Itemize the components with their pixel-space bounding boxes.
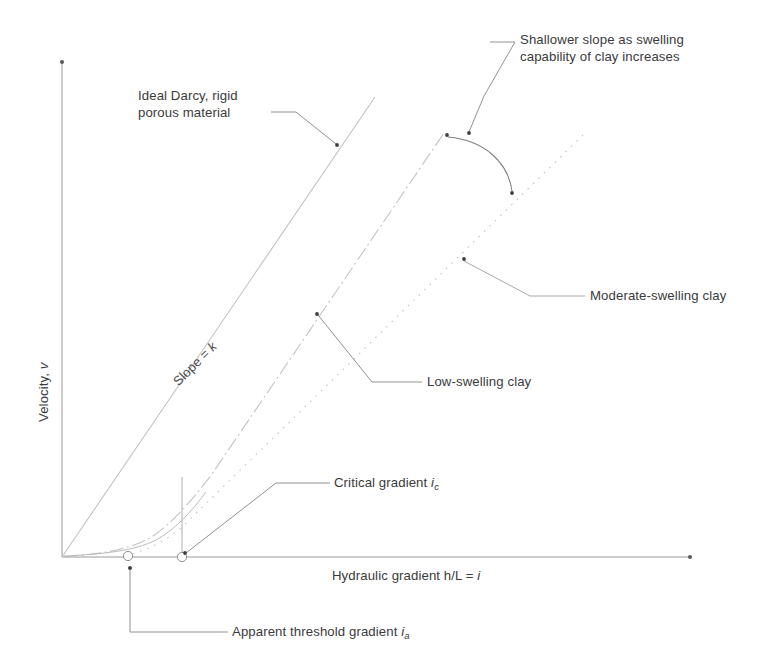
leader-low-swelling-clay	[315, 312, 422, 382]
annotation-moderate-swelling-clay: Moderate-swelling clay	[590, 288, 726, 305]
leader-apparent-threshold-gradient-path	[130, 570, 228, 632]
leader-critical-gradient-path	[186, 483, 330, 553]
leader-shallower-slope	[467, 42, 515, 135]
leader-ideal-darcy-path	[271, 112, 336, 144]
leader-ideal-darcy-dot	[335, 143, 339, 147]
low-swelling-onset-curve	[64, 492, 206, 556]
leader-moderate-swelling-clay-dot	[462, 257, 466, 261]
leader-shallower-slope-path	[469, 42, 515, 132]
annotation-critical-gradient: Critical gradient ic	[334, 475, 439, 495]
y-axis-tip-marker	[60, 60, 64, 64]
leader-apparent-threshold-gradient	[128, 566, 228, 632]
annotation-apparent-threshold-gradient-text: Apparent threshold gradient	[232, 624, 401, 639]
leader-apparent-threshold-gradient-dot	[128, 566, 132, 570]
leader-low-swelling-clay-dot	[315, 312, 319, 316]
annotation-critical-gradient-subscript: c	[434, 481, 439, 492]
swelling-increase-arrow-start-dot	[445, 133, 449, 137]
x-axis-label-symbol: i	[477, 568, 480, 583]
swelling-increase-arrow	[445, 133, 514, 195]
y-axis-label: Velocity, v	[36, 363, 51, 423]
figure-velocity-vs-hydraulic-gradient: Velocity, v Hydraulic gradient h/L = i S…	[0, 0, 772, 668]
leader-low-swelling-clay-path	[318, 315, 422, 382]
apparent-threshold-gradient-marker	[123, 551, 132, 560]
y-axis-label-symbol: v	[36, 363, 51, 370]
swelling-increase-arrow-end-dot	[510, 191, 514, 195]
annotation-critical-gradient-text: Critical gradient	[334, 475, 431, 490]
leader-shallower-slope-dot	[467, 131, 471, 135]
x-axis-label: Hydraulic gradient h/L = i	[332, 568, 480, 583]
swelling-increase-arrow-arc	[448, 137, 512, 191]
leader-moderate-swelling-clay-path	[464, 261, 585, 296]
annotation-apparent-threshold-gradient-subscript: a	[404, 630, 409, 641]
leader-critical-gradient-dot	[183, 551, 187, 555]
annotation-shallower-slope: Shallower slope as swelling capability o…	[520, 32, 684, 65]
annotation-ideal-darcy: Ideal Darcy, rigid porous material	[138, 88, 238, 121]
annotation-apparent-threshold-gradient: Apparent threshold gradient ia	[232, 624, 410, 644]
x-axis-tip-marker	[688, 555, 692, 559]
leader-ideal-darcy	[271, 112, 339, 147]
x-axis-label-text: Hydraulic gradient h/L =	[332, 568, 477, 583]
annotation-low-swelling-clay: Low-swelling clay	[427, 374, 531, 391]
leader-moderate-swelling-clay	[462, 257, 585, 296]
y-axis-label-text: Velocity,	[36, 369, 51, 422]
